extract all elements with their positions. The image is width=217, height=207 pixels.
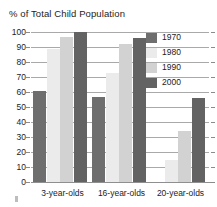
legend-swatch-icon (146, 63, 157, 73)
legend-swatch-icon (146, 48, 157, 58)
legend-item-1990[interactable]: 1990 (146, 60, 209, 75)
y-axis-tick-label: 20 (17, 148, 26, 157)
y-axis-tick-right (211, 182, 215, 183)
bar-1990-16-year-olds (119, 44, 132, 182)
y-axis-tick (26, 122, 30, 123)
legend-item-label: 2000 (162, 78, 181, 87)
legend-item-label: 1990 (162, 63, 181, 72)
y-axis-tick-label: 10 (17, 163, 26, 172)
legend-item-1970[interactable]: 1970 (146, 30, 209, 45)
legend: 1970198019902000 (146, 30, 209, 90)
y-axis-tick (26, 107, 30, 108)
bar-1970-3-year-olds (33, 91, 46, 183)
bar-1990-20-year-olds (178, 131, 191, 182)
y-axis-tick (26, 92, 30, 93)
legend-item-label: 1980 (162, 48, 181, 57)
bar-group (92, 32, 151, 182)
y-axis-tick-right (211, 92, 215, 93)
y-axis-tick-right (211, 152, 215, 153)
y-axis-tick-label: 60 (17, 88, 26, 97)
y-axis-tick-right (211, 122, 215, 123)
bar-1980-16-year-olds (106, 73, 119, 183)
bar-2000-16-year-olds (133, 38, 146, 182)
legend-swatch-icon (146, 78, 157, 88)
y-axis-tick (26, 32, 30, 33)
y-axis-tick-label: 40 (17, 118, 26, 127)
y-axis-tick-right (211, 77, 215, 78)
axis-baseline (31, 182, 211, 183)
x-axis-tick-label: 20-year-olds (145, 188, 216, 198)
bar-1990-3-year-olds (60, 37, 73, 183)
y-axis-tick (26, 182, 30, 183)
corner-artifact-mark (15, 196, 18, 202)
y-axis-tick-label: 70 (17, 73, 26, 82)
legend-item-1980[interactable]: 1980 (146, 45, 209, 60)
y-axis-tick-label: 30 (17, 133, 26, 142)
y-axis-tick-right (211, 32, 215, 33)
chart-title: % of Total Child Population (9, 8, 125, 19)
bar-2000-20-year-olds (192, 98, 205, 182)
y-axis-tick-right (211, 47, 215, 48)
y-axis-tick (26, 47, 30, 48)
y-axis-tick-right (211, 62, 215, 63)
bar-1980-20-year-olds (165, 160, 178, 183)
bar-chart: % of Total Child Population 100908070605… (0, 0, 217, 207)
legend-item-label: 1970 (162, 33, 181, 42)
y-axis-tick-right (211, 137, 215, 138)
bar-group (33, 32, 92, 182)
y-axis-tick (26, 167, 30, 168)
y-axis-tick-label: 50 (17, 103, 26, 112)
bar-2000-3-year-olds (74, 32, 87, 182)
y-axis-tick (26, 152, 30, 153)
legend-swatch-icon (146, 33, 157, 43)
y-axis-tick (26, 137, 30, 138)
y-axis-tick (26, 77, 30, 78)
y-axis-tick-label: 80 (17, 58, 26, 67)
legend-item-2000[interactable]: 2000 (146, 75, 209, 90)
y-axis-tick (26, 62, 30, 63)
bar-1980-3-year-olds (47, 49, 60, 183)
y-axis-tick-right (211, 167, 215, 168)
y-axis-tick-label: 90 (17, 43, 26, 52)
y-axis-labels: 1009080706050403020100 (0, 0, 26, 207)
y-axis-tick-right (211, 107, 215, 108)
bar-1970-16-year-olds (92, 97, 105, 183)
y-axis-tick-label: 100 (12, 28, 26, 37)
